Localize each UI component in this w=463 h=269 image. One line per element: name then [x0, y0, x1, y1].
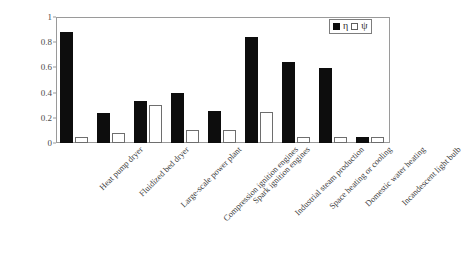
legend: ηψ [329, 19, 372, 34]
bar-group [316, 17, 353, 143]
bar-eta [245, 37, 258, 143]
bar-psi [297, 137, 310, 143]
bar-group [242, 17, 279, 143]
bar-eta [134, 101, 147, 143]
bar-eta [319, 68, 332, 143]
bar-group [279, 17, 316, 143]
bar-eta [282, 62, 295, 143]
x-axis-label: Heat pump dryer [97, 145, 144, 192]
y-axis-tick-label: 0.2 [41, 113, 52, 122]
x-axis-label: Large-scale power plant [179, 145, 243, 209]
bar-group [353, 17, 390, 143]
bar-eta [60, 32, 73, 143]
bar-group [130, 17, 167, 143]
x-axis-label: Fluidized bed dryer [137, 145, 190, 198]
bar-psi [260, 112, 273, 144]
y-axis-tick-label: 0.4 [41, 88, 52, 97]
bar-psi [334, 137, 347, 143]
bar-psi [149, 105, 162, 143]
bar-psi [223, 130, 236, 143]
bar-psi [371, 137, 384, 143]
bar-group [93, 17, 130, 143]
bar-group [56, 17, 93, 143]
bar-group [204, 17, 241, 143]
y-axis-tick-label: 0.8 [41, 38, 52, 47]
bar-eta [171, 93, 184, 143]
y-axis-tick-label: 1 [48, 13, 53, 22]
y-axis-tick-label: 0 [48, 139, 53, 148]
legend-open-square-icon [351, 23, 358, 30]
bar-eta [208, 111, 221, 143]
bars-layer [56, 17, 390, 143]
bar-psi [75, 137, 88, 143]
legend-label: ψ [361, 21, 367, 31]
y-axis-tick-label: 0.6 [41, 63, 52, 72]
x-axis-label: Domestic water heating [364, 145, 427, 208]
bar-eta [356, 137, 369, 143]
y-axis: 00.20.40.60.81 [28, 17, 56, 143]
bar-psi [186, 130, 199, 143]
bar-psi [112, 133, 125, 143]
bar-eta [97, 113, 110, 143]
legend-filled-square-icon [333, 23, 340, 30]
bar-group [167, 17, 204, 143]
x-axis-category-labels: Heat pump dryerFluidized bed dryerLarge-… [56, 145, 390, 265]
legend-label: η [343, 21, 348, 31]
